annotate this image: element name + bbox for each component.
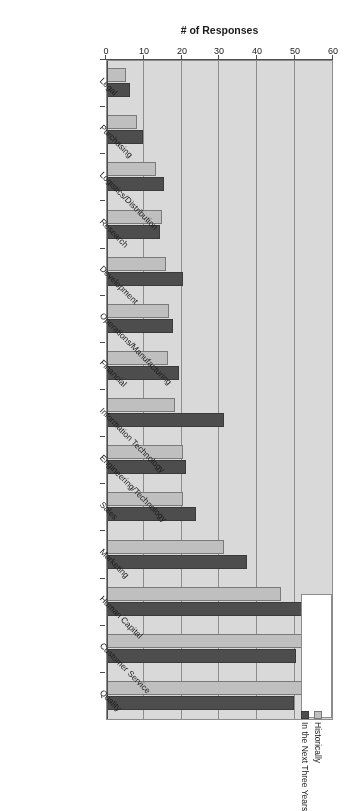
bar-next-three-years (107, 696, 294, 710)
legend-entry-next-three-years: In the Next Three Years (300, 711, 309, 811)
category-tick (100, 436, 105, 437)
plot-area (106, 60, 333, 720)
category-tick (100, 578, 105, 579)
bar-group (107, 530, 334, 577)
category-tick (100, 672, 105, 673)
category-tick (100, 59, 105, 60)
category-tick (100, 200, 105, 201)
bar-historically (107, 398, 175, 412)
value-axis (106, 59, 333, 60)
category-tick (100, 295, 105, 296)
bar-next-three-years (107, 649, 296, 663)
bar-group (107, 106, 334, 153)
category-tick (100, 389, 105, 390)
bar-group (107, 153, 334, 200)
bar-group (107, 59, 334, 106)
bar-group (107, 389, 334, 436)
bar-group (107, 578, 334, 625)
bar-historically (107, 115, 137, 129)
value-tick-label: 0 (91, 46, 121, 56)
category-tick (100, 153, 105, 154)
category-tick (100, 530, 105, 531)
value-tick-label: 20 (167, 46, 197, 56)
bar-next-three-years (107, 555, 247, 569)
bar-group (107, 248, 334, 295)
dark-square-swatch (301, 711, 309, 719)
category-tick (100, 342, 105, 343)
bar-historically (107, 587, 281, 601)
bar-historically (107, 257, 166, 271)
value-axis-title: # of Responses (86, 24, 353, 36)
legend-label-historically: Historically (313, 722, 323, 763)
value-tick-label: 30 (205, 46, 235, 56)
bar-next-three-years (107, 602, 323, 616)
category-tick (100, 625, 105, 626)
legend-label-next-three-years: In the Next Three Years (300, 722, 310, 811)
value-tick-label: 10 (129, 46, 159, 56)
chart-legend: Historically In the Next Three Years (301, 594, 332, 718)
bar-group (107, 295, 334, 342)
bar-historically (107, 162, 156, 176)
bar-historically (107, 540, 224, 554)
value-tick-label: 50 (280, 46, 310, 56)
light-square-swatch (314, 711, 322, 719)
category-tick (100, 483, 105, 484)
legend-entry-historically: Historically (313, 711, 322, 763)
value-tick-label: 40 (242, 46, 272, 56)
value-tick-label: 60 (318, 46, 348, 56)
category-tick (100, 106, 105, 107)
category-tick (100, 248, 105, 249)
category-axis-line (107, 61, 108, 719)
bar-historically (107, 304, 169, 318)
